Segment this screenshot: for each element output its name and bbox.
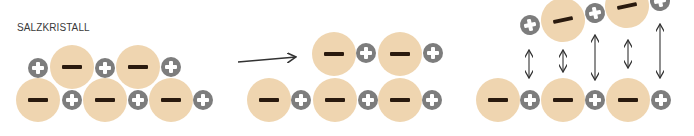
arrow-layer	[0, 0, 694, 136]
shift-arrow-icon	[238, 57, 296, 62]
salt-crystal-diagram: SALZKRISTALL	[0, 0, 694, 136]
